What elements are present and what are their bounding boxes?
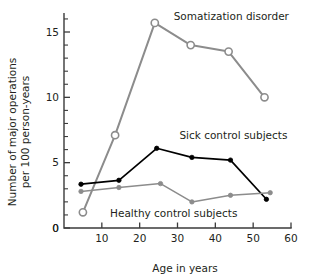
y-axis-title-line2: per 100 person-years [19,76,31,189]
data-point-filled [158,181,162,185]
data-point-filled [228,193,232,197]
data-point-open [151,19,158,26]
series-label-0: Somatization disorder [174,10,290,22]
data-point-open [225,48,232,55]
data-point-open [112,132,119,139]
data-point-filled [79,182,83,186]
axis-lines [64,14,291,228]
chart-figure: 0510150102030405060Somatization disorder… [0,0,309,278]
data-point-filled [264,197,268,201]
data-point-open [261,94,268,101]
data-point-open [187,42,194,49]
y-tick-label: 15 [46,26,59,38]
data-series [79,19,273,216]
x-tick-label-zero: 0 [52,222,59,234]
data-point-filled [190,200,194,204]
line-chart: 0510150102030405060Somatization disorder… [0,0,309,278]
y-tick-label: 10 [46,91,59,103]
data-point-open [79,209,86,216]
series-label-1: Sick control subjects [179,129,287,141]
data-point-filled [117,185,121,189]
data-point-filled [155,146,159,150]
series-label-2: Healthy control subjects [110,207,237,219]
x-tick-label: 30 [171,232,184,244]
data-point-filled [117,178,121,182]
x-tick-label: 10 [95,232,108,244]
x-tick-label: 60 [284,232,297,244]
x-tick-label: 20 [133,232,146,244]
data-point-filled [228,158,232,162]
x-axis-title: Age in years [152,262,217,274]
x-tick-label: 50 [246,232,259,244]
data-point-filled [268,191,272,195]
y-tick-label: 5 [52,156,59,168]
data-point-filled [79,189,83,193]
data-point-filled [190,155,194,159]
y-axis-title-line1: Number of major operations [6,58,18,207]
axes [64,14,291,228]
x-tick-label: 40 [209,232,222,244]
series-line-2 [81,184,270,202]
series-line-0 [83,23,265,212]
chart-labels: 0510150102030405060Somatization disorder… [6,10,298,274]
